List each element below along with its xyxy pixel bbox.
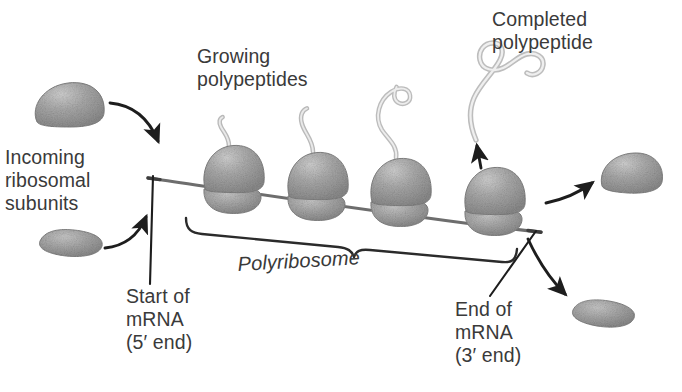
departing-small-subunit (572, 300, 634, 327)
incoming-small-subunit (40, 229, 103, 256)
large-subunit-2 (288, 152, 348, 199)
label-start-of-mrna: Start of mRNA (5′ end) (126, 285, 192, 354)
arrow-incoming-small (105, 217, 146, 248)
leader-end-mrna (490, 231, 536, 296)
completed-polypeptide-chain (470, 43, 543, 140)
large-subunit-1 (204, 145, 264, 192)
label-end-of-mrna: End of mRNA (3′ end) (455, 298, 521, 367)
ribosome-1 (204, 117, 264, 213)
polyribosome-diagram: Incoming ribosomal subunits Growing poly… (0, 0, 682, 392)
departing-large-subunit (601, 153, 662, 193)
large-subunit-4 (465, 167, 525, 214)
ribosome-3 (371, 87, 431, 227)
arrow-departing-small (528, 239, 565, 294)
label-incoming-ribosomal-subunits: Incoming ribosomal subunits (5, 146, 90, 215)
ribosome-2 (288, 108, 348, 220)
arrow-departing-large (546, 183, 592, 203)
diagram-artwork (0, 0, 682, 392)
label-completed-polypeptide: Completed polypeptide (492, 8, 593, 54)
leader-start-mrna (150, 176, 153, 284)
ribosome-4 (465, 167, 525, 235)
incoming-large-subunit (35, 83, 104, 127)
arrow-incoming-large (110, 103, 158, 141)
arrow-release-polypeptide (477, 146, 481, 168)
label-growing-polypeptides: Growing polypeptides (197, 45, 308, 91)
large-subunit-3 (371, 158, 431, 205)
